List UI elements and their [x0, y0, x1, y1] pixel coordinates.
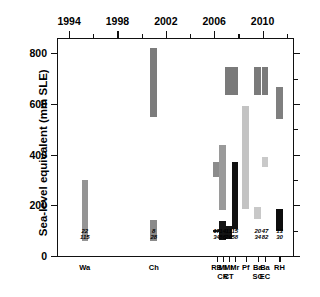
bar-value-pair-ba_sc: 2034: [254, 228, 261, 241]
y-tick-major: [51, 104, 57, 105]
y-tick-right-major: [294, 256, 300, 257]
x-tick-label: 1998: [106, 16, 129, 27]
y-tick-right-minor: [294, 79, 298, 80]
data-bar-ba_ec2: [262, 67, 269, 94]
y-tick-major: [51, 256, 57, 257]
y-tick-right-minor: [294, 129, 298, 130]
y-tick-right-major: [294, 205, 300, 206]
x-category-tick: [279, 256, 280, 262]
y-tick-right-major: [294, 53, 300, 54]
bar-value-pair-ch: 828: [150, 228, 157, 241]
x-category-tick: [229, 256, 230, 262]
y-tick-right-minor: [294, 231, 298, 232]
y-tick-major: [51, 53, 57, 54]
data-bar-rh: [276, 87, 283, 119]
bar-value-bottom: 58: [231, 234, 238, 240]
x-tick-minor: [238, 34, 239, 38]
data-bar-ba_sc2: [254, 67, 261, 94]
x-tick-minor: [287, 34, 288, 38]
category-sublabel-CT: CT: [224, 273, 234, 281]
x-tick-major: [117, 31, 118, 38]
x-tick-minor: [142, 34, 143, 38]
data-bar-mr2_lo: [232, 162, 239, 229]
category-label-Mr: Mr: [230, 264, 239, 272]
bar-value-bottom: 82: [262, 234, 269, 240]
y-tick-right-major: [294, 104, 300, 105]
bar-value-pair-wa: 22115: [80, 228, 90, 241]
x-tick-label: 1994: [57, 16, 80, 27]
x-category-tick: [258, 256, 259, 262]
category-label-Ba-EC: Ba: [260, 264, 270, 272]
x-tick-minor: [93, 34, 94, 38]
y-tick-major: [51, 205, 57, 206]
axis-left: [57, 38, 58, 256]
x-tick-label: 2006: [203, 16, 226, 27]
x-category-tick: [217, 256, 218, 262]
y-tick-major: [51, 155, 57, 156]
bar-value-bottom: 34: [254, 234, 261, 240]
x-tick-major: [166, 31, 167, 38]
data-bar-ba_ec: [262, 157, 269, 167]
data-bar-ba_sc: [254, 207, 261, 219]
x-tick-major: [263, 31, 264, 38]
x-category-tick: [265, 256, 266, 262]
plot-area: 19941998200220062010 0200400600800 22115…: [57, 38, 294, 256]
bar-value-bottom: 115: [80, 234, 90, 240]
category-label-Pf: Pf: [242, 264, 250, 272]
axis-top: [57, 38, 294, 39]
y-tick-right-minor: [294, 180, 298, 181]
y-axis-title: Sea-level equivalent (mm SLE): [38, 3, 50, 297]
data-bar-pf: [242, 106, 249, 209]
x-category-tick: [223, 256, 224, 262]
x-tick-major: [214, 31, 215, 38]
bar-value-bottom: 30: [276, 234, 283, 240]
x-tick-major: [69, 31, 70, 38]
bar-value-pair-ba_ec: 4782: [262, 228, 269, 241]
figure-container: 19941998200220062010 0200400600800 22115…: [0, 0, 320, 297]
x-category-tick: [235, 256, 236, 262]
x-tick-minor: [190, 34, 191, 38]
x-category-tick: [246, 256, 247, 262]
bar-value-pair-rh: 1330: [276, 228, 283, 241]
x-tick-label: 2002: [154, 16, 177, 27]
x-tick-label: 2010: [251, 16, 274, 27]
data-bar-mr2: [232, 67, 239, 94]
bar-value-pair-mr2: 1558: [231, 228, 238, 241]
axis-right: [293, 38, 294, 256]
category-sublabel-EC: EC: [260, 273, 270, 281]
category-label-RH: RH: [274, 264, 285, 272]
category-label-Ch: Ch: [149, 264, 159, 272]
bar-value-bottom: 28: [150, 234, 157, 240]
data-bar-ch_hi: [150, 48, 157, 116]
y-tick-right-major: [294, 155, 300, 156]
data-bar-ml: [219, 145, 226, 209]
category-label-Wa: Wa: [79, 264, 90, 272]
